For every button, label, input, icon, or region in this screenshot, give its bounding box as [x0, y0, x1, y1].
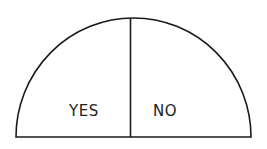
semicircle-outline	[16, 18, 251, 137]
no-region-label: NO	[153, 104, 177, 119]
yes-region-label: YES	[69, 104, 99, 119]
semicircle-diagram	[0, 0, 267, 149]
